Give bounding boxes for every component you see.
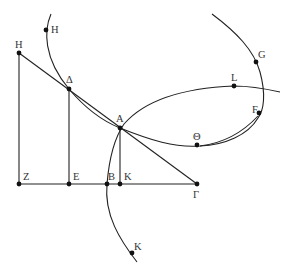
geometric-diagram: H H Δ A Z E B K Γ K Θ L G F	[0, 0, 291, 278]
point-L	[232, 84, 237, 89]
label-H-curve: H	[51, 24, 59, 35]
segment-H-Gamma	[19, 53, 197, 184]
label-K-base: K	[124, 171, 132, 182]
label-H-left: H	[15, 39, 23, 50]
label-E: E	[73, 171, 79, 182]
curve-H-Delta-A-Theta	[47, 14, 258, 146]
point-Delta	[67, 87, 72, 92]
point-Theta	[195, 143, 200, 148]
label-A: A	[116, 113, 124, 124]
label-Z: Z	[23, 171, 29, 182]
point-A	[118, 126, 123, 131]
label-B: B	[108, 171, 115, 182]
label-Delta: Δ	[66, 74, 73, 85]
label-Gamma: Γ	[193, 189, 199, 200]
point-Gamma	[195, 182, 200, 187]
point-Z	[17, 182, 22, 187]
point-H-left	[17, 51, 22, 56]
point-K-base	[118, 182, 123, 187]
label-G: G	[258, 49, 266, 60]
label-Theta: Θ	[193, 131, 201, 142]
point-E	[67, 182, 72, 187]
point-G	[254, 60, 259, 65]
point-H-curve	[44, 28, 49, 33]
label-K-curve: K	[134, 241, 142, 252]
point-B	[105, 182, 110, 187]
label-L: L	[231, 72, 237, 83]
label-F: F	[252, 104, 258, 115]
